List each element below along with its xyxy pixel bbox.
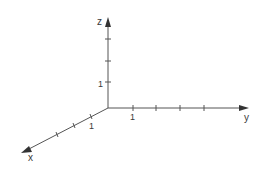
x-axis-label: x: [28, 152, 33, 163]
y-arrow-icon: [239, 105, 249, 111]
x-axis-line: [27, 108, 108, 150]
z-unit-label: 1: [98, 79, 103, 89]
z-axis-label: z: [97, 16, 102, 27]
z-arrow-icon: [105, 17, 111, 27]
axes-svg: z y x 1 1 1: [0, 0, 263, 171]
y-axis-label: y: [244, 112, 249, 123]
y-unit-label: 1: [130, 112, 135, 122]
x-unit-label: 1: [89, 121, 94, 131]
diagram-canvas: z y x 1 1 1: [0, 0, 263, 171]
